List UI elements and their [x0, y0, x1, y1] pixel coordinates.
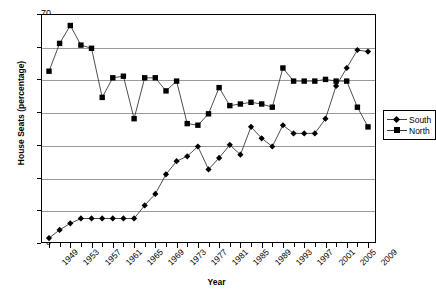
- x-tick-mark: [123, 243, 124, 247]
- data-point-north: [195, 123, 200, 128]
- x-tick-mark: [283, 243, 284, 248]
- x-tick-mark: [198, 243, 199, 248]
- data-point-south: [88, 215, 94, 221]
- x-tick-mark: [251, 243, 252, 247]
- data-point-south: [365, 49, 371, 55]
- data-point-north: [46, 69, 51, 74]
- x-tick-mark: [240, 243, 241, 248]
- x-tick-mark: [315, 243, 316, 247]
- data-point-north: [121, 74, 126, 79]
- x-tick-label: 2009: [379, 247, 399, 267]
- data-point-north: [365, 124, 370, 129]
- data-point-north: [248, 100, 253, 105]
- x-tick-mark: [81, 243, 82, 247]
- x-tick-label: 1997: [315, 247, 335, 267]
- x-tick-label: 1965: [145, 247, 165, 267]
- x-tick-mark: [209, 243, 210, 247]
- x-tick-mark: [230, 243, 231, 247]
- x-tick-mark: [102, 243, 103, 247]
- x-tick-label: 1949: [60, 247, 80, 267]
- south-marker-icon: [387, 115, 407, 124]
- data-point-north: [270, 105, 275, 110]
- x-tick-label: 1957: [102, 247, 122, 267]
- x-tick-mark: [113, 243, 114, 248]
- data-point-north: [344, 78, 349, 83]
- x-tick-mark: [368, 243, 369, 248]
- data-point-north: [78, 42, 83, 47]
- data-point-north: [259, 101, 264, 106]
- x-tick-mark: [219, 243, 220, 248]
- data-point-south: [333, 83, 339, 89]
- data-point-south: [354, 47, 360, 53]
- x-tick-mark: [92, 243, 93, 248]
- series-line-south: [49, 50, 368, 238]
- data-point-south: [110, 215, 116, 221]
- x-tick-label: 1993: [293, 247, 313, 267]
- x-tick-mark: [304, 243, 305, 248]
- data-point-north: [100, 95, 105, 100]
- data-point-north: [227, 103, 232, 108]
- data-point-north: [206, 111, 211, 116]
- data-point-north: [68, 23, 73, 28]
- x-tick-label: 1961: [123, 247, 143, 267]
- x-tick-mark: [134, 243, 135, 248]
- x-tick-mark: [166, 243, 167, 247]
- x-tick-mark: [336, 243, 337, 247]
- x-axis-title: Year: [0, 277, 433, 287]
- x-tick-label: 1969: [166, 247, 186, 267]
- legend-label-south: South: [407, 115, 431, 125]
- x-tick-label: 1985: [251, 247, 271, 267]
- data-point-north: [216, 85, 221, 90]
- data-point-north: [280, 65, 285, 70]
- x-tick-label: 1973: [187, 247, 207, 267]
- x-tick-label: 2005: [357, 247, 377, 267]
- x-tick-mark: [70, 243, 71, 248]
- data-point-north: [302, 78, 307, 83]
- x-tick-mark: [272, 243, 273, 247]
- data-point-north: [131, 116, 136, 121]
- x-tick-mark: [49, 243, 50, 248]
- x-tick-mark: [60, 243, 61, 247]
- data-point-north: [355, 105, 360, 110]
- x-tick-label: 1977: [208, 247, 228, 267]
- north-marker-icon: [387, 126, 407, 135]
- data-point-south: [322, 116, 328, 122]
- data-point-north: [153, 75, 158, 80]
- data-point-north: [174, 78, 179, 83]
- data-point-south: [99, 215, 105, 221]
- data-point-south: [344, 65, 350, 71]
- data-point-north: [57, 41, 62, 46]
- data-point-north: [323, 77, 328, 82]
- x-tick-mark: [326, 243, 327, 248]
- x-tick-label: 2001: [336, 247, 356, 267]
- x-tick-mark: [155, 243, 156, 248]
- legend-label-north: North: [407, 126, 430, 136]
- legend: South North: [383, 110, 436, 140]
- data-point-north: [110, 75, 115, 80]
- data-point-south: [120, 215, 126, 221]
- data-point-north: [163, 88, 168, 93]
- data-point-south: [301, 130, 307, 136]
- x-tick-label: 1981: [230, 247, 250, 267]
- y-tick-mark: [37, 243, 41, 244]
- data-point-south: [67, 220, 73, 226]
- x-tick-mark: [262, 243, 263, 248]
- data-point-south: [78, 215, 84, 221]
- data-point-north: [185, 121, 190, 126]
- data-point-north: [312, 78, 317, 83]
- legend-item-north[interactable]: North: [387, 125, 431, 136]
- x-tick-mark: [177, 243, 178, 248]
- data-point-north: [142, 75, 147, 80]
- data-point-north: [238, 101, 243, 106]
- data-point-north: [89, 46, 94, 51]
- x-tick-mark: [347, 243, 348, 248]
- legend-item-south[interactable]: South: [387, 114, 431, 125]
- x-tick-label: 1953: [81, 247, 101, 267]
- x-tick-mark: [187, 243, 188, 247]
- x-tick-mark: [294, 243, 295, 247]
- x-tick-mark: [357, 243, 358, 247]
- data-point-north: [333, 78, 338, 83]
- series-layer: [41, 14, 376, 243]
- x-tick-mark: [145, 243, 146, 247]
